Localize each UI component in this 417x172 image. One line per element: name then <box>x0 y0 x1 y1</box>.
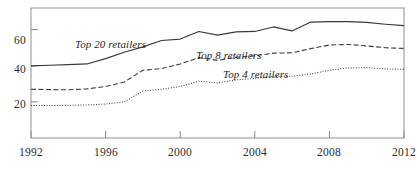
y-tick-label-20: 20 <box>4 98 26 110</box>
y-tick-label-60: 60 <box>4 34 26 46</box>
chart-figure: 60 40 20 1992 1996 2000 2004 2008 2012 T… <box>0 0 417 172</box>
x-tick-label-2008: 2008 <box>307 146 351 158</box>
series-label-top-8-retailers: Top 8 retailers <box>196 49 261 61</box>
x-tick-label-1992: 1992 <box>9 146 53 158</box>
chart-plot-area <box>0 0 417 172</box>
y-tick-label-40: 40 <box>4 63 26 75</box>
x-tick-label-2004: 2004 <box>233 146 277 158</box>
x-tick-label-2012: 2012 <box>382 146 417 158</box>
plot-frame <box>31 8 404 138</box>
x-tick-label-1996: 1996 <box>84 146 128 158</box>
series-label-top-4-retailers: Top 4 retailers <box>223 68 288 80</box>
series-label-top-20-retailers: Top 20 retailers <box>75 38 146 50</box>
x-tick-label-2000: 2000 <box>158 146 202 158</box>
